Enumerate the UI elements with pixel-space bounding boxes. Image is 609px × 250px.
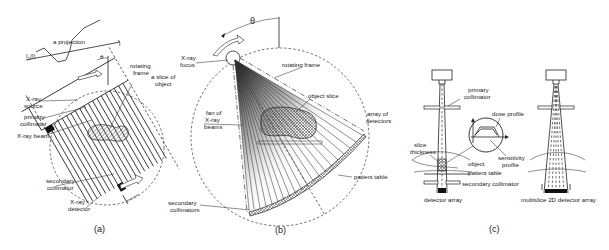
single-slice-assembly [412,70,472,193]
label-detector-array: detector array [424,196,463,203]
caption-b: (b) [275,225,286,235]
label-patient-table-b: patient table [354,173,388,180]
label-l-axis: l [119,40,120,47]
xray-tube-right [546,70,566,80]
label-secondary-collimator-a: secondarycollimator [46,177,75,191]
label-xray-source: X-raysource [24,95,43,109]
label-array-of-detectors: array ofdetectors [366,110,391,124]
object-slice-shape [88,125,129,141]
ct-geometry-figure: a projection Iθ(l) θ l rotatingframe a s… [0,0,609,250]
label-fan-of-beams: fan ofX-raybeams [204,109,223,130]
label-theta-b: θ [250,16,255,26]
label-secondary-collimators: secondarycollimators [168,199,200,213]
label-xray-beam: X-ray beam [17,132,49,139]
detector-left [438,188,446,193]
panel-b-fan-beam: θ X-rayfocus rotating frame object slice… [168,16,391,235]
label-secondary-collimator-c: secondary collimator [462,180,519,187]
label-patient-table-c: patient table [468,169,502,176]
label-slice-thickness: slicethickness [410,141,436,155]
label-primary-collimator-c: primarycollimator [464,86,490,100]
label-sensitivity-profile: sensitivityprofile [498,154,526,168]
label-multislice-detector-array: multislice 2D detector array [521,196,597,203]
detector-array-right [545,189,567,193]
label-rotating-frame-a: rotatingframe [130,62,151,76]
label-dose-profile: dose profile [492,110,525,117]
label-rotating-frame-b: rotating frame [282,61,321,68]
label-axis-i: Iθ(l) [26,52,35,61]
label-theta-a: θ [100,53,104,60]
caption-a: (a) [94,224,105,234]
label-object-slice: object slice [308,92,339,99]
label-primary-collimator-a: primarycollimator [20,113,46,127]
panel-a-parallel-beam: a projection Iθ(l) θ l rotatingframe a s… [16,20,182,234]
multislice-assembly [528,70,586,193]
caption-c: (c) [489,224,500,234]
label-xray-detector: X-raydetector [68,198,90,212]
rotation-arrow-bottom [120,175,143,189]
xray-tube-left [432,70,452,80]
label-slice-of-object: a slice ofobject [151,73,176,87]
label-xray-focus: X-rayfocus [180,54,197,68]
label-object: object [468,160,485,167]
rotation-arrow-top [78,70,102,80]
label-projection: a projection [53,38,86,45]
panel-c-slice-geometry: primarycollimator dose profile slicethic… [410,70,597,234]
